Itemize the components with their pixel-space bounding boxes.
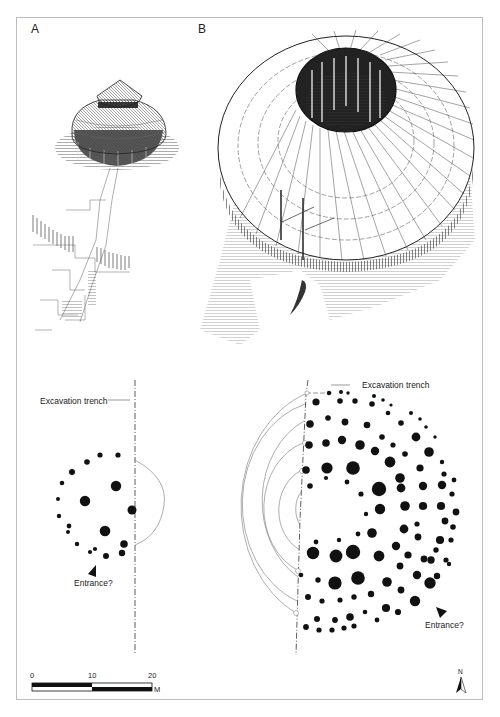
scale-tick-0: 0 (30, 671, 34, 680)
entrance-label-right: Entrance? (425, 620, 464, 630)
illustration-ring-building-b (200, 30, 475, 345)
plan-left (56, 380, 164, 655)
rings-right (241, 393, 307, 613)
entrance-arrow-left (88, 565, 96, 577)
scale-bar (32, 683, 152, 691)
scale-tick-10: 10 (88, 671, 96, 680)
figure-artwork (0, 0, 500, 717)
postholes-right (299, 390, 460, 633)
north-label: N (458, 668, 463, 675)
trench-label-left: Excavation trench (40, 396, 108, 406)
illustration-roundhouse-a (33, 80, 179, 330)
scale-tick-20: 20 (148, 671, 156, 680)
plan-right (241, 380, 459, 655)
scale-unit: M (154, 685, 160, 694)
trench-label-right: Excavation trench (362, 380, 430, 390)
entrance-arrow-right (436, 607, 447, 618)
north-arrow-icon (456, 677, 466, 693)
entrance-label-left: Entrance? (74, 578, 113, 588)
postholes-left (56, 452, 137, 559)
